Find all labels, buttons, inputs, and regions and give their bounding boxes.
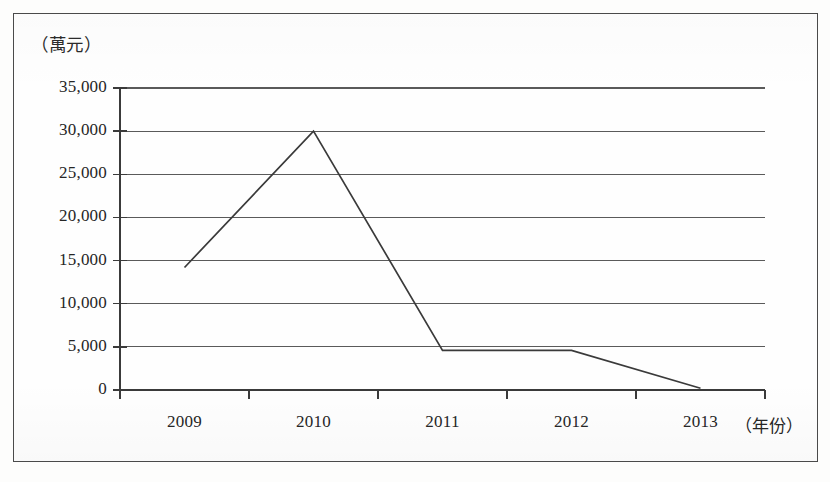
y-tick-label: 0	[0, 379, 107, 399]
gridlines-group	[120, 88, 765, 390]
x-tick-marks-group	[120, 383, 765, 399]
y-tick-label: 10,000	[0, 293, 107, 313]
axes-group	[120, 88, 765, 390]
figure-page: （萬元） 05,00010,00015,00020,00025,00030,00…	[0, 0, 830, 482]
x-tick-label: 2012	[522, 412, 622, 432]
y-tick-label: 20,000	[0, 206, 107, 226]
x-tick-label: 2009	[135, 412, 235, 432]
x-tick-label: 2011	[393, 412, 493, 432]
y-tick-label: 15,000	[0, 250, 107, 270]
y-tick-label: 35,000	[0, 77, 107, 97]
y-tick-label: 5,000	[0, 336, 107, 356]
chart-plot-area	[0, 0, 830, 482]
x-tick-label: 2010	[264, 412, 364, 432]
data-series-line	[185, 131, 701, 388]
data-line-group	[185, 131, 701, 388]
x-axis-unit-label: （年份）	[735, 412, 804, 437]
y-tick-label: 25,000	[0, 163, 107, 183]
y-tick-label: 30,000	[0, 120, 107, 140]
